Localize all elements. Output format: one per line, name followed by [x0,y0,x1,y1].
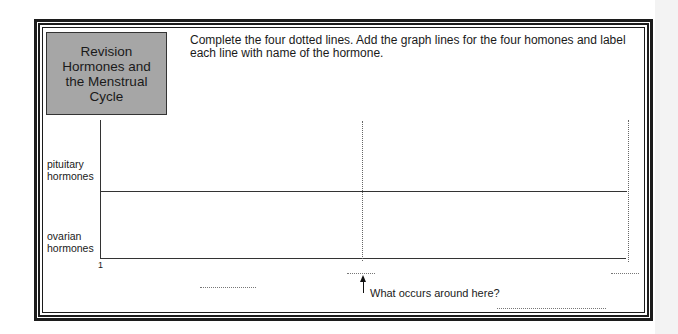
y-label-pituitary: pituitary hormones [47,158,94,182]
title-line: the Menstrual [62,74,151,89]
x-start-label: 1 [98,260,103,270]
answer-blank-1[interactable] [200,287,256,288]
mid-cycle-dotted-marker [362,121,363,261]
title-box: Revision Hormones and the Menstrual Cycl… [46,32,167,115]
instructions-text: Complete the four dotted lines. Add the … [190,34,630,60]
y-label-line: hormones [47,170,94,182]
graph-divider-line [100,191,627,192]
title-line: Cycle [62,89,151,104]
annotation-question: What occurs around here? [370,287,500,299]
answer-blank-2[interactable] [347,273,375,274]
title-line: Revision [62,44,151,59]
y-label-line: hormones [47,242,94,254]
y-label-line: pituitary [47,158,94,170]
answer-blank-3[interactable] [611,273,639,274]
end-cycle-dotted-marker [628,120,629,262]
x-axis [100,258,626,259]
y-axis [100,120,101,259]
arrow-shaft [363,279,364,293]
page-edge-shade [655,0,678,334]
answer-blank-4[interactable] [497,308,606,309]
y-label-ovarian: ovarian hormones [47,230,94,254]
y-label-line: ovarian [47,230,94,242]
title-line: Hormones and [62,59,151,74]
